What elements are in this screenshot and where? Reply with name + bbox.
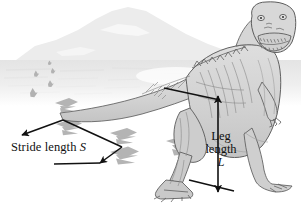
stride-length-arrow xyxy=(22,120,63,135)
dinosaur-pupil-right xyxy=(282,16,284,18)
dinosaur-stride-figure: Stride length S Leg length L xyxy=(0,0,301,211)
dinosaur-shin xyxy=(170,152,192,184)
stride-length-label: Stride length S xyxy=(11,141,86,154)
dinosaur-foot xyxy=(155,180,192,199)
footprint-track-3 xyxy=(110,147,139,165)
footprint-track-2 xyxy=(110,128,137,144)
dinosaur-pupil-left xyxy=(260,17,262,19)
stride-length-symbol: S xyxy=(80,140,86,154)
figure-canvas xyxy=(0,0,301,211)
stride-length-lower-edge xyxy=(54,163,100,164)
leg-length-symbol: L xyxy=(198,156,244,169)
leg-length-ground-line xyxy=(189,180,234,191)
stride-length-text: Stride length xyxy=(11,140,77,154)
leg-length-label: Leg length L xyxy=(198,130,244,169)
